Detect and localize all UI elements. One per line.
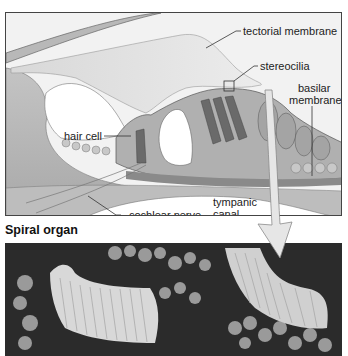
spiral-organ-illustration: tectorial membrane stereocilia basilar m…	[5, 12, 342, 216]
label-stereocilia: stereocilia	[260, 60, 310, 72]
cochlea-cross-section-drawing	[6, 13, 342, 216]
label-tectorial-membrane: tectorial membrane	[243, 25, 337, 37]
stereocilia-micrograph	[5, 243, 342, 356]
label-tympanic-canal-line1: tympanic	[213, 196, 257, 208]
label-hair-cell: hair cell	[64, 130, 102, 142]
label-tympanic-canal-line2: canal	[213, 208, 239, 216]
label-cochlear-nerve: cochlear nerve	[129, 209, 201, 216]
label-basilar-membrane-line2: membrane	[289, 94, 342, 106]
micrograph-texture	[5, 243, 342, 356]
figure-caption: Spiral organ	[5, 223, 78, 237]
label-basilar-membrane-line1: basilar	[298, 82, 330, 94]
